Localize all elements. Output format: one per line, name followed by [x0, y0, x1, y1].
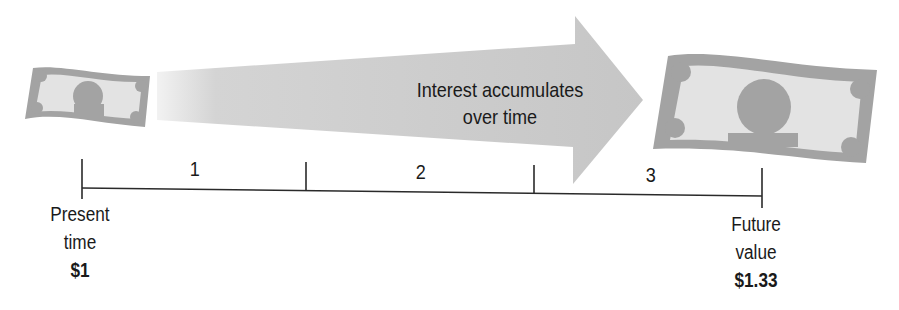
future-label-line1: Future: [713, 210, 799, 238]
small-dollar-bill-icon: [25, 67, 150, 127]
arrow-label-line1: Interest accumulates: [388, 76, 612, 103]
present-label-line2: time: [37, 228, 123, 256]
period-label-3: 3: [646, 163, 656, 187]
future-value-diagram: Interest accumulates over time 1 2 3 Pre…: [0, 0, 899, 310]
period-label-1: 1: [190, 157, 200, 181]
large-dollar-bill-icon: [653, 54, 877, 163]
future-value-amount: $1.33: [713, 266, 799, 294]
future-label-line2: value: [713, 238, 799, 266]
present-value: $1: [37, 256, 123, 284]
arrow-label: Interest accumulates over time: [388, 76, 612, 130]
present-label-line1: Present: [37, 200, 123, 228]
arrow-label-line2: over time: [388, 103, 612, 130]
period-label-2: 2: [416, 160, 426, 184]
present-time-label: Present time $1: [37, 200, 123, 284]
future-value-label: Future value $1.33: [713, 210, 799, 294]
